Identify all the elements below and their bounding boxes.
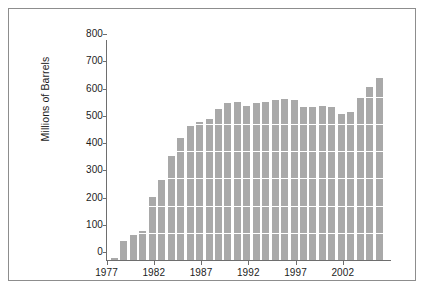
x-tick-label: 2002 — [323, 267, 363, 278]
y-tick-mark — [103, 143, 107, 144]
x-tick-label: 1992 — [228, 267, 268, 278]
x-tick-label: 1982 — [134, 267, 174, 278]
x-tick-mark — [248, 261, 249, 265]
x-axis-tick-labels: 197719821987199219972002 — [9, 9, 433, 297]
y-tick-mark — [103, 61, 107, 62]
y-tick-mark — [103, 225, 107, 226]
y-tick-mark — [103, 89, 107, 90]
y-tick-mark — [103, 170, 107, 171]
x-tick-mark — [107, 261, 108, 265]
figure-frame: Millions of Barrels 01002003004005006007… — [8, 8, 416, 281]
x-tick-mark — [201, 261, 202, 265]
x-tick-mark — [296, 261, 297, 265]
y-tick-mark — [103, 116, 107, 117]
x-tick-label: 1977 — [87, 267, 127, 278]
x-tick-mark — [343, 261, 344, 265]
x-tick-mark — [154, 261, 155, 265]
y-tick-mark — [103, 198, 107, 199]
x-tick-label: 1987 — [181, 267, 221, 278]
y-tick-mark — [103, 252, 107, 253]
x-tick-label: 1997 — [276, 267, 316, 278]
y-tick-mark — [103, 34, 107, 35]
chart-figure: Millions of Barrels 01002003004005006007… — [0, 0, 433, 297]
